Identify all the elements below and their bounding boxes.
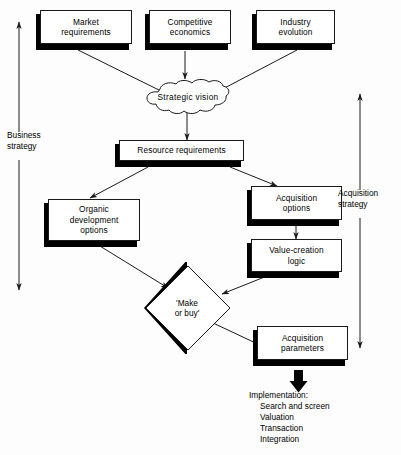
node-organic-development-options[interactable]: Organic development options xyxy=(48,199,140,241)
node-competitive-economics[interactable]: Competitive economics xyxy=(149,10,231,44)
node-value-creation-logic-label: Value-creation logic xyxy=(269,245,323,266)
node-competitive-economics-label: Competitive economics xyxy=(168,17,213,38)
implementation-item-valuation: Valuation xyxy=(249,412,330,423)
label-business-strategy: Business strategy xyxy=(7,130,41,151)
arrow-resource-to-organic xyxy=(90,167,148,198)
node-make-or-buy-label-line2: or buy' xyxy=(175,308,200,319)
node-acquisition-parameters[interactable]: Acquisition parameters xyxy=(257,326,348,360)
node-market-requirements[interactable]: Market requirements xyxy=(40,10,132,44)
node-acquisition-parameters-label: Acquisition parameters xyxy=(281,333,324,354)
node-industry-evolution-label: Industry evolution xyxy=(278,17,312,38)
node-market-requirements-label: Market requirements xyxy=(61,17,111,38)
node-organic-development-options-label: Organic development options xyxy=(70,204,119,236)
node-make-or-buy-label-line1: 'Make xyxy=(176,298,198,309)
node-make-or-buy-text: 'Make or buy' xyxy=(140,262,234,354)
node-resource-requirements-label: Resource requirements xyxy=(137,145,225,156)
node-acquisition-options-label: Acquisition options xyxy=(276,193,317,214)
node-strategic-vision[interactable]: Strategic vision xyxy=(138,79,238,115)
implementation-item-integration: Integration xyxy=(249,434,330,445)
node-acquisition-options[interactable]: Acquisition options xyxy=(251,186,342,220)
flowchart-diagram: Market requirements Competitive economic… xyxy=(0,0,401,455)
implementation-item-transaction: Transaction xyxy=(249,423,330,434)
arrow-resource-to-acqoptions xyxy=(230,167,277,186)
node-strategic-vision-label: Strategic vision xyxy=(138,79,238,115)
implementation-item-search-and-screen: Search and screen xyxy=(249,401,330,412)
label-acquisition-strategy: Acquisition strategy xyxy=(338,188,378,209)
node-value-creation-logic[interactable]: Value-creation logic xyxy=(251,239,342,272)
node-industry-evolution[interactable]: Industry evolution xyxy=(256,10,335,44)
node-make-or-buy[interactable]: 'Make or buy' xyxy=(140,262,234,354)
implementation-title: Implementation: xyxy=(249,390,330,401)
implementation-block: Implementation: Search and screen Valuat… xyxy=(249,390,330,445)
node-resource-requirements[interactable]: Resource requirements xyxy=(119,140,244,161)
